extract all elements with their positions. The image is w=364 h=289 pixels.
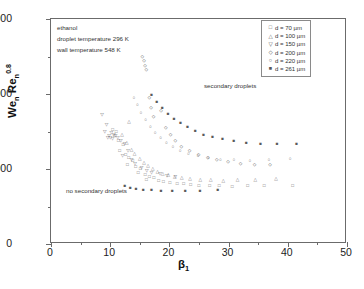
data-point: ▽ [158, 172, 162, 177]
data-point: ▽ [145, 169, 149, 174]
data-point: ■ [186, 125, 189, 130]
y-axis-minor-tick [48, 207, 51, 208]
data-point: ○ [144, 118, 147, 123]
legend-item: □d = 70 µm [266, 24, 305, 32]
data-point: □ [263, 184, 266, 189]
x-axis-tick [288, 242, 289, 247]
data-point: ○ [159, 136, 162, 141]
data-point: ○ [207, 156, 210, 161]
legend: □d = 70 µm△d = 100 µm▽d = 150 µm◇d = 200… [261, 20, 311, 77]
data-point: ○ [289, 157, 292, 162]
data-point: △ [221, 178, 225, 183]
data-point: □ [182, 182, 185, 187]
data-point: ○ [140, 110, 143, 115]
x-axis-tick [110, 242, 111, 247]
triangle-up-marker-icon: △ [266, 34, 275, 40]
data-point: ◇ [253, 162, 257, 167]
data-point: □ [176, 182, 179, 187]
data-point: ■ [173, 116, 176, 121]
y-axis-tick [46, 94, 51, 95]
data-point: ■ [211, 135, 214, 140]
legend-label: d = 100 µm [275, 33, 305, 39]
data-point: □ [169, 181, 172, 186]
legend-item: ◇d = 200 µm [266, 49, 305, 57]
data-point: □ [137, 170, 140, 175]
data-point: ▽ [121, 154, 125, 159]
data-point: △ [209, 178, 213, 183]
condition-line: wall temperature 548 K [57, 45, 129, 56]
data-point: ▽ [174, 175, 178, 180]
data-point: ▽ [111, 136, 115, 141]
data-point: ■ [295, 141, 298, 146]
y-tick-label: 6000 [0, 13, 12, 24]
data-point: ▽ [133, 162, 137, 167]
data-point: ■ [245, 140, 248, 145]
data-point: ◇ [226, 160, 230, 165]
data-point: □ [145, 178, 148, 183]
legend-label: d = 200 µm [275, 50, 305, 56]
x-axis-minor-tick [81, 242, 82, 245]
x-tick-label: 30 [208, 247, 248, 258]
data-point: ■ [202, 132, 205, 137]
x-tick-label: 0 [30, 247, 70, 258]
square-filled-marker-icon: ■ [266, 66, 275, 72]
data-point: ▽ [105, 122, 109, 127]
data-point: ▽ [126, 149, 130, 154]
legend-label: d = 261 µm [275, 66, 305, 72]
data-point: △ [127, 120, 131, 125]
legend-item: ▽d = 150 µm [266, 40, 305, 48]
legend-item: ○d = 220 µm [266, 57, 305, 65]
x-axis-minor-tick [317, 242, 318, 245]
annotation-no-secondary-droplets: no secondary droplets [66, 187, 127, 194]
y-tick-label: 0 [0, 238, 12, 249]
data-point: ○ [249, 158, 252, 163]
data-point: ○ [179, 148, 182, 153]
data-point: ▽ [165, 173, 169, 178]
x-tick-label: 10 [89, 247, 129, 258]
data-point: △ [253, 178, 257, 183]
diamond-marker-icon: ◇ [266, 50, 275, 56]
condition-line: droplet temperature 296 K [57, 34, 129, 45]
data-point: △ [198, 178, 202, 183]
legend-label: d = 150 µm [275, 41, 305, 47]
data-point: ◇ [164, 125, 168, 130]
data-point: ■ [156, 99, 159, 104]
condition-line: ethanol [57, 23, 129, 34]
data-point: ■ [194, 129, 197, 134]
data-point: ■ [179, 121, 182, 126]
data-point: ■ [160, 188, 163, 193]
annotation-secondary-droplets: secondary droplets [204, 82, 256, 89]
data-point: ■ [129, 185, 132, 190]
y-tick-label: 2000 [0, 163, 12, 174]
data-point: □ [148, 175, 151, 180]
x-axis-minor-tick [199, 242, 200, 245]
experiment-conditions-note: ethanoldroplet temperature 296 Kwall tem… [57, 23, 129, 56]
data-point: □ [231, 184, 234, 189]
data-point: □ [126, 162, 129, 167]
square-marker-icon: □ [266, 25, 275, 31]
data-point: ■ [233, 139, 236, 144]
data-point: ◇ [268, 163, 272, 168]
data-point: ■ [124, 184, 127, 189]
data-point: ○ [267, 158, 270, 163]
data-point: ◇ [174, 138, 178, 143]
data-point: ○ [132, 95, 135, 100]
y-axis-minor-tick [48, 132, 51, 133]
data-point: □ [162, 180, 165, 185]
x-axis-title: β1 [178, 258, 189, 273]
legend-label: d = 220 µm [275, 58, 305, 64]
data-point: ■ [171, 189, 174, 194]
x-tick-label: 40 [267, 247, 307, 258]
data-point: ■ [221, 137, 224, 142]
data-point: ◇ [145, 68, 149, 73]
data-point: △ [274, 177, 278, 182]
data-point: ○ [187, 151, 190, 156]
data-point: ■ [142, 187, 145, 192]
data-point: □ [157, 179, 160, 184]
triangle-down-marker-icon: ▽ [266, 42, 275, 48]
data-point: ○ [165, 140, 168, 145]
data-point: ■ [150, 92, 153, 97]
data-point: ◇ [239, 161, 243, 166]
data-point: ▽ [150, 170, 154, 175]
data-point: ○ [172, 145, 175, 150]
